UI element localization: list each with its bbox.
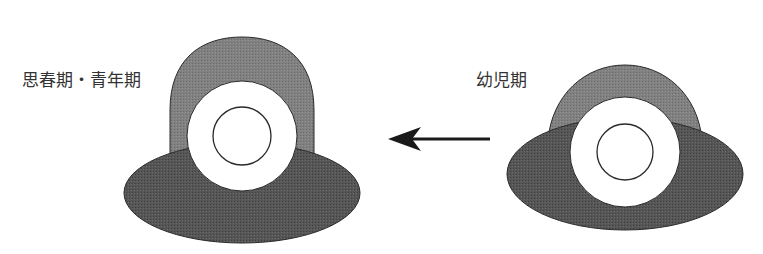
arrow-left-icon — [388, 127, 490, 151]
figure-early-childhood — [507, 65, 743, 230]
inner-core-circle — [213, 107, 271, 165]
label-adolescence: 思春期・青年期 — [22, 66, 141, 91]
development-diagram — [0, 0, 763, 254]
label-early-childhood: 幼児期 — [476, 66, 527, 91]
inner-core-circle — [597, 124, 653, 180]
figure-adolescence — [124, 37, 360, 243]
